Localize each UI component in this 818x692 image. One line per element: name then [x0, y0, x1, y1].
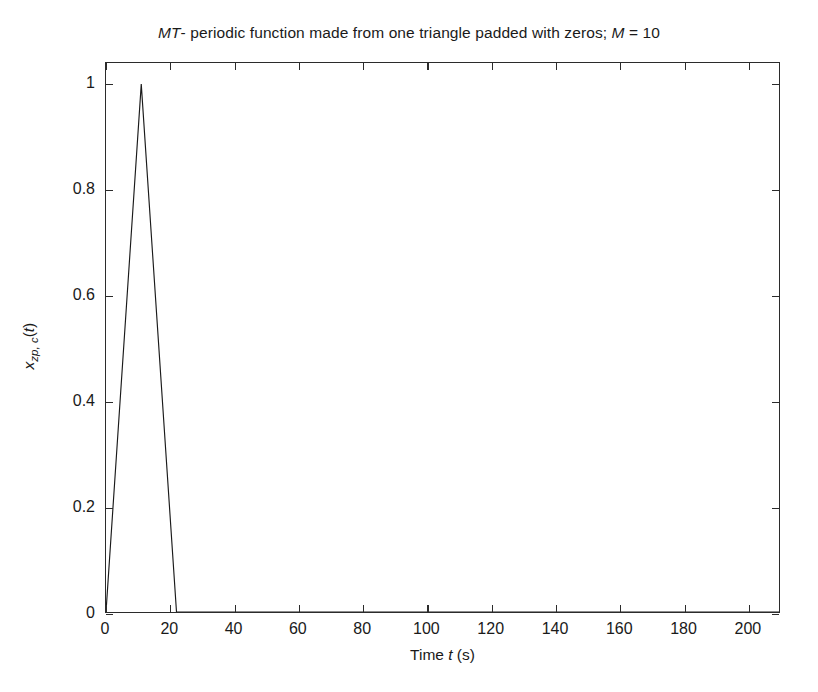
x-tick-mark	[170, 605, 171, 612]
y-tick-mark-right	[772, 614, 779, 615]
x-tick-mark	[685, 605, 686, 612]
y-tick-mark-right	[772, 508, 779, 509]
data-curve-svg	[106, 63, 779, 612]
x-axis-label-suffix: (s)	[453, 646, 475, 663]
y-axis-label: xzp, c(t)	[20, 286, 40, 406]
y-axis-label-wrap: xzp, c(t)	[0, 290, 60, 410]
x-tick-mark-top	[235, 63, 236, 70]
chart-figure: MT- periodic function made from one tria…	[0, 0, 818, 692]
x-tick-mark-top	[749, 63, 750, 70]
x-tick-mark-top	[363, 63, 364, 70]
x-tick-label: 60	[289, 620, 307, 638]
x-tick-mark-top	[620, 63, 621, 70]
y-tick-mark	[106, 190, 113, 191]
x-axis-label-prefix: Time	[410, 646, 448, 663]
x-tick-label: 180	[670, 620, 697, 638]
y-tick-mark	[106, 402, 113, 403]
x-tick-label: 40	[225, 620, 243, 638]
y-tick-label: 0.2	[45, 498, 95, 516]
x-tick-mark-top	[299, 63, 300, 70]
x-tick-label: 0	[101, 620, 110, 638]
title-m-value: = 10	[625, 24, 660, 41]
title-main-text: - periodic function made from one triang…	[181, 24, 612, 41]
x-tick-label: 120	[477, 620, 504, 638]
x-tick-mark	[106, 605, 107, 612]
y-tick-mark-right	[772, 84, 779, 85]
x-tick-mark-top	[556, 63, 557, 70]
x-tick-label: 160	[606, 620, 633, 638]
title-italic-m: M	[612, 24, 625, 41]
x-tick-mark-top	[170, 63, 171, 70]
x-tick-mark-top	[427, 63, 428, 70]
y-tick-mark	[106, 296, 113, 297]
x-tick-mark-top	[685, 63, 686, 70]
y-tick-label: 0.8	[45, 180, 95, 198]
x-tick-mark-top	[106, 63, 107, 70]
y-tick-mark-right	[772, 190, 779, 191]
series-line-xzpc	[106, 84, 779, 612]
x-axis-label: Time t (s)	[105, 646, 780, 664]
plot-area	[105, 62, 780, 613]
y-tick-mark	[106, 84, 113, 85]
y-axis-label-subscript: zp, c	[28, 337, 40, 361]
x-tick-label: 140	[542, 620, 569, 638]
x-tick-mark	[749, 605, 750, 612]
y-tick-label: 0	[45, 604, 95, 622]
x-tick-mark	[556, 605, 557, 612]
y-axis-label-arg: (t)	[20, 323, 37, 338]
x-tick-mark	[492, 605, 493, 612]
y-axis-label-base: x	[20, 362, 37, 370]
x-tick-label: 200	[734, 620, 761, 638]
y-tick-label: 1	[45, 74, 95, 92]
x-tick-mark	[427, 605, 428, 612]
x-tick-label: 80	[353, 620, 371, 638]
x-tick-label: 100	[413, 620, 440, 638]
x-tick-mark	[235, 605, 236, 612]
x-tick-mark-top	[492, 63, 493, 70]
x-tick-mark	[363, 605, 364, 612]
y-tick-mark	[106, 614, 113, 615]
title-italic-mt: MT	[158, 24, 181, 41]
y-tick-mark	[106, 508, 113, 509]
x-tick-mark	[299, 605, 300, 612]
chart-title: MT- periodic function made from one tria…	[0, 24, 818, 42]
x-tick-mark	[620, 605, 621, 612]
y-tick-mark-right	[772, 402, 779, 403]
y-tick-mark-right	[772, 296, 779, 297]
x-tick-label: 20	[160, 620, 178, 638]
